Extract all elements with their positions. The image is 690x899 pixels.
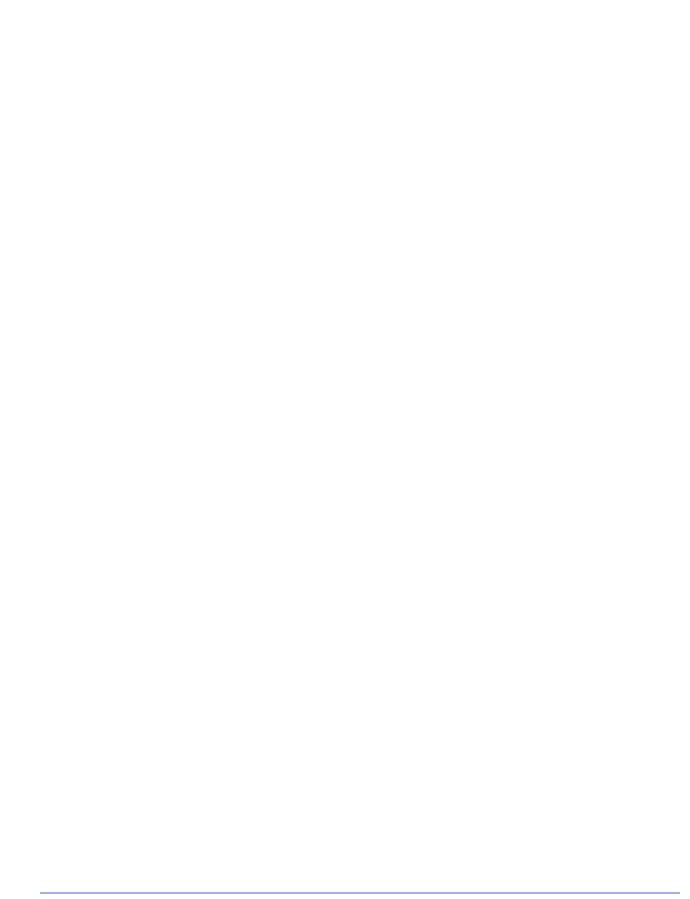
figure-canvas <box>0 0 690 899</box>
